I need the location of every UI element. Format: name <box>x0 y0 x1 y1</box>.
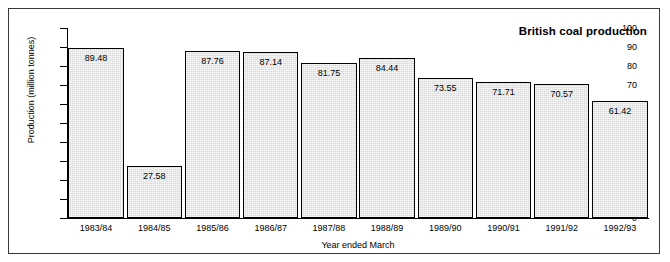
bar: 87.76 <box>185 51 241 218</box>
x-axis-tick-label: 1984/85 <box>125 224 183 233</box>
x-axis-tick-label: 1992/93 <box>591 224 649 233</box>
x-axis-tick-label: 1990/91 <box>474 224 532 233</box>
bar: 81.75 <box>301 63 357 218</box>
y-axis-tick <box>60 47 67 48</box>
y-axis-tick-label: 100 <box>622 24 637 33</box>
bar: 61.42 <box>592 101 648 218</box>
y-axis-tick <box>60 104 67 105</box>
y-axis-tick <box>60 85 67 86</box>
bar-value-label: 71.71 <box>477 88 531 97</box>
y-axis-tick <box>60 199 67 200</box>
bar-value-label: 27.58 <box>128 172 182 181</box>
y-axis-tick <box>60 66 67 67</box>
x-axis-tick-label: 1983/84 <box>67 224 125 233</box>
bar: 89.48 <box>68 48 124 218</box>
bar-value-label: 87.76 <box>186 57 240 66</box>
y-axis-tick <box>60 142 67 143</box>
x-axis-tick-label: 1989/90 <box>416 224 474 233</box>
y-axis-tick-label: 90 <box>627 43 637 52</box>
y-axis-tick <box>60 28 67 29</box>
x-axis-tick-label: 1987/88 <box>300 224 358 233</box>
bar: 27.58 <box>127 166 183 218</box>
x-axis-title: Year ended March <box>67 240 649 250</box>
y-axis-tick <box>60 218 67 219</box>
x-axis-line <box>67 218 649 219</box>
bar: 84.44 <box>359 58 415 218</box>
bar-value-label: 84.44 <box>360 64 414 73</box>
y-axis-tick <box>60 180 67 181</box>
bar-value-label: 89.48 <box>69 54 123 63</box>
x-axis-tick-label: 1986/87 <box>242 224 300 233</box>
bar-value-label: 81.75 <box>302 69 356 78</box>
bar: 73.55 <box>418 78 474 218</box>
x-axis-tick-label: 1985/86 <box>183 224 241 233</box>
y-axis-tick-label: 80 <box>627 62 637 71</box>
bar: 71.71 <box>476 82 532 218</box>
y-axis-tick-label: 70 <box>627 81 637 90</box>
x-axis-tick-label: 1991/92 <box>533 224 591 233</box>
y-axis-tick <box>60 123 67 124</box>
x-axis-tick-label: 1988/89 <box>358 224 416 233</box>
bar: 70.57 <box>534 84 590 218</box>
bar-value-label: 61.42 <box>593 107 647 116</box>
y-axis-tick <box>60 161 67 162</box>
chart-figure: British coal production Production (mill… <box>8 8 660 254</box>
y-axis-title: Production (million tonnes) <box>26 10 36 170</box>
bar-value-label: 73.55 <box>419 84 473 93</box>
bar-value-label: 70.57 <box>535 90 589 99</box>
bar: 87.14 <box>243 52 299 218</box>
bar-value-label: 87.14 <box>244 58 298 67</box>
plot-area: 0102030405060708090100 89.4827.5887.7687… <box>67 28 649 218</box>
